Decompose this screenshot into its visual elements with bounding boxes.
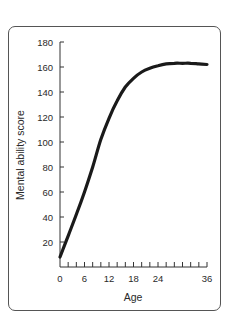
y-tick-label: 20 xyxy=(42,237,53,248)
x-tick-label: 6 xyxy=(82,273,87,284)
y-tick-label: 40 xyxy=(42,212,53,223)
y-axis-title: Mental ability score xyxy=(14,110,26,200)
y-tick-label: 140 xyxy=(37,87,53,98)
x-tick-label: 18 xyxy=(128,273,139,284)
y-tick-label: 120 xyxy=(37,112,53,123)
y-tick-label: 180 xyxy=(37,37,53,48)
y-tick-label: 160 xyxy=(37,62,53,73)
y-tick-label: 60 xyxy=(42,187,53,198)
x-tick-label: 0 xyxy=(57,273,62,284)
y-axis: 20406080100120140160180 xyxy=(37,37,64,268)
x-tick-label: 36 xyxy=(202,273,213,284)
x-axis: 0612182436 xyxy=(57,262,212,284)
x-axis-title: Age xyxy=(124,291,143,303)
y-tick-label: 100 xyxy=(37,137,53,148)
y-tick-label: 80 xyxy=(42,162,53,173)
x-tick-label: 24 xyxy=(153,273,164,284)
x-tick-label: 12 xyxy=(104,273,115,284)
line-chart: 20406080100120140160180 0612182436 Age M… xyxy=(0,0,232,325)
data-line xyxy=(60,63,207,257)
